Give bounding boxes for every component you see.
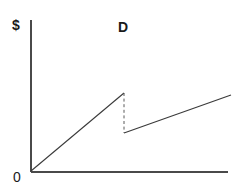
chart-canvas <box>0 0 233 191</box>
demand-ramp-second-segment <box>124 95 231 133</box>
demand-ramp-first-segment <box>31 93 124 171</box>
y-axis-label-dollar: $ <box>12 18 20 32</box>
series-label-d: D <box>118 20 128 34</box>
sawtooth-chart: $ 0 D <box>0 0 233 191</box>
origin-label: 0 <box>13 170 21 184</box>
